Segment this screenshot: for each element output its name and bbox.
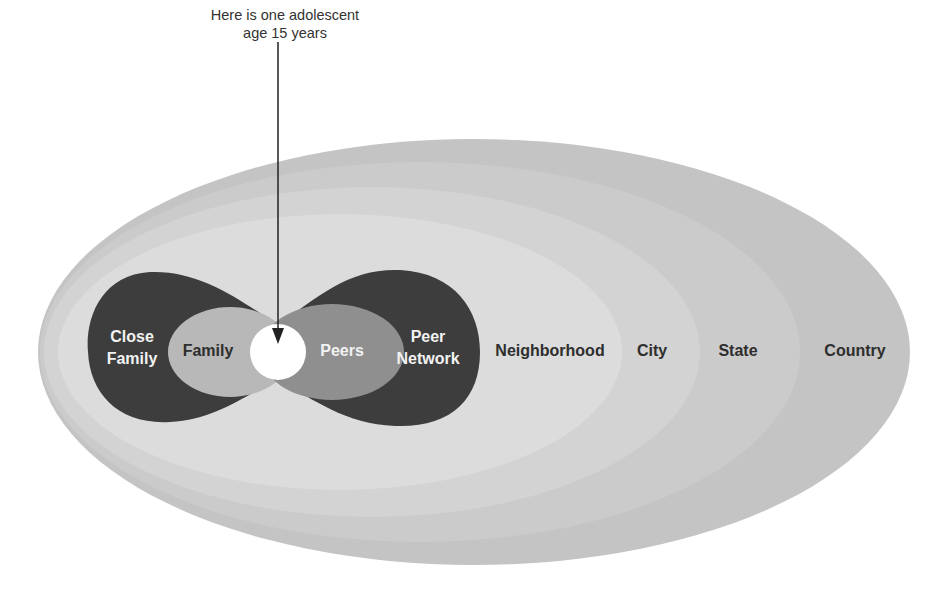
annotation-line-1: Here is one adolescent <box>211 7 359 23</box>
label-neighborhood: Neighborhood <box>495 342 604 359</box>
label-peer-network-1: Peer <box>411 328 446 345</box>
label-peers: Peers <box>320 342 364 359</box>
label-close-family-2: Family <box>107 350 158 367</box>
label-city: City <box>637 342 667 359</box>
ecological-model-diagram: Here is one adolescent age 15 years Clos… <box>0 0 947 593</box>
label-close-family-1: Close <box>110 328 154 345</box>
label-state: State <box>718 342 757 359</box>
label-peer-network-2: Network <box>396 350 459 367</box>
label-country: Country <box>824 342 885 359</box>
label-family: Family <box>183 342 234 359</box>
annotation-line-2: age 15 years <box>243 25 327 41</box>
